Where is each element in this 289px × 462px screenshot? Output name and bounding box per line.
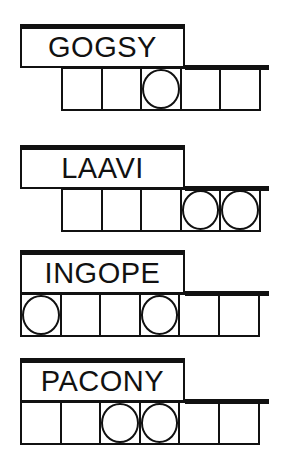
answer-cell-2[interactable]	[60, 293, 102, 337]
circle-marker-icon	[101, 403, 139, 443]
answer-cell-6[interactable]	[218, 293, 260, 337]
scrambled-word: INGOPE	[45, 257, 161, 290]
scrambled-word-label: PACONY	[20, 358, 185, 402]
answer-cell-3-circled[interactable]	[140, 67, 182, 111]
scrambled-word-label: LAAVI	[20, 145, 185, 189]
answer-cell-4-circled[interactable]	[139, 293, 181, 337]
answer-cell-5[interactable]	[178, 293, 220, 337]
answer-cell-6[interactable]	[218, 401, 260, 445]
circle-marker-icon	[22, 295, 60, 335]
answer-row	[61, 67, 261, 111]
circle-marker-icon	[221, 190, 259, 230]
answer-cell-2[interactable]	[101, 67, 143, 111]
answer-row	[20, 401, 260, 445]
answer-cell-3-circled[interactable]	[99, 401, 141, 445]
answer-cell-5[interactable]	[178, 401, 220, 445]
circle-marker-icon	[182, 190, 220, 230]
circle-marker-icon	[141, 403, 179, 443]
answer-row	[20, 293, 260, 337]
row-top-bar	[185, 399, 269, 404]
answer-cell-3[interactable]	[99, 293, 141, 337]
answer-cell-2[interactable]	[101, 188, 143, 232]
answer-cell-5[interactable]	[219, 67, 261, 111]
answer-cell-3[interactable]	[140, 188, 182, 232]
answer-cell-1[interactable]	[61, 188, 103, 232]
answer-cell-1-circled[interactable]	[20, 293, 62, 337]
answer-cell-5-circled[interactable]	[219, 188, 261, 232]
scrambled-word: GOGSY	[48, 31, 157, 64]
scrambled-word: PACONY	[41, 365, 164, 398]
answer-cell-4-circled[interactable]	[180, 188, 222, 232]
answer-row	[61, 188, 261, 232]
answer-cell-1[interactable]	[20, 401, 62, 445]
answer-cell-2[interactable]	[60, 401, 102, 445]
circle-marker-icon	[142, 69, 180, 109]
circle-marker-icon	[141, 295, 179, 335]
answer-cell-4[interactable]	[180, 67, 222, 111]
row-top-bar	[185, 65, 269, 70]
scrambled-word: LAAVI	[61, 152, 144, 185]
answer-cell-4-circled[interactable]	[139, 401, 181, 445]
scrambled-word-label: GOGSY	[20, 24, 185, 68]
scrambled-word-label: INGOPE	[20, 250, 185, 294]
row-top-bar	[185, 186, 269, 191]
answer-cell-1[interactable]	[61, 67, 103, 111]
row-top-bar	[185, 291, 269, 296]
